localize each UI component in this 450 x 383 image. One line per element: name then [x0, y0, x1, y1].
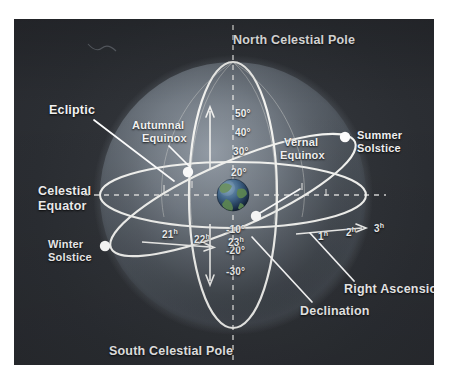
- ra-tick-22-hour: 22: [194, 235, 206, 246]
- label-north-celestial-pole: North Celestial Pole: [233, 33, 355, 47]
- ra-tick-23: 23h: [210, 225, 244, 260]
- label-vernal-equinox-line1: Vernal: [284, 136, 318, 148]
- ra-tick-3-unit: h: [380, 222, 384, 229]
- label-winter-solstice-line2: Solstice: [48, 251, 92, 263]
- dec-tick-20: 20°: [231, 167, 247, 178]
- figure-canvas: North Celestial Pole South Celestial Pol…: [0, 0, 450, 383]
- ra-tick-3: 3h: [356, 211, 384, 246]
- label-right-ascension: Right Ascension: [344, 282, 434, 296]
- node-autumnal-equinox: [183, 167, 193, 177]
- ra-tick-1: 1h: [300, 219, 328, 254]
- ra-tick-2: 2h: [328, 215, 356, 250]
- label-autumnal-equinox-line1: Autumnal: [132, 119, 184, 131]
- ra-tick-21-hour: 21: [162, 230, 174, 241]
- panel-artifact-scratch: [88, 44, 116, 51]
- dec-tick-minus30: -30°: [226, 266, 245, 277]
- dec-tick-40: 40°: [235, 127, 251, 138]
- label-celestial-equator-line2: Equator: [38, 199, 87, 213]
- ra-tick-23-unit: h: [239, 236, 243, 243]
- label-south-celestial-pole: South Celestial Pole: [109, 344, 233, 358]
- label-summer-solstice-line1: Summer: [357, 129, 402, 141]
- ra-tick-23-hour: 23: [228, 238, 240, 249]
- dec-tick-50: 50°: [235, 108, 251, 119]
- label-autumnal-equinox-line2: Equinox: [142, 132, 187, 144]
- label-ecliptic: Ecliptic: [49, 103, 95, 117]
- dec-tick-30: 30°: [233, 146, 249, 157]
- node-summer-solstice: [340, 132, 350, 142]
- label-celestial-equator-line1: Celestial: [38, 184, 91, 198]
- label-winter-solstice-line1: Winter: [48, 238, 83, 250]
- ra-tick-21: 21h: [144, 217, 178, 252]
- celestial-sphere-diagram: North Celestial Pole South Celestial Pol…: [14, 19, 434, 365]
- label-summer-solstice-line2: Solstice: [357, 142, 401, 154]
- label-vernal-equinox-line2: Equinox: [280, 149, 325, 161]
- node-winter-solstice: [100, 241, 110, 251]
- label-declination: Declination: [300, 304, 370, 318]
- ra-tick-22: 22h: [176, 222, 210, 257]
